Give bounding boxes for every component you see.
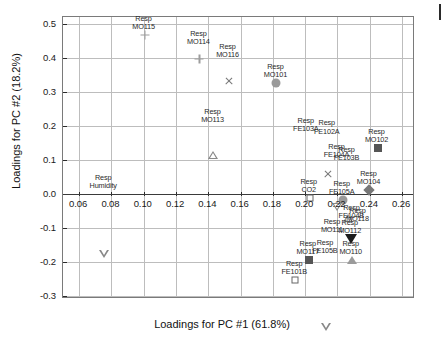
x-tick-label: 0.18 <box>263 198 281 209</box>
x-gridline <box>144 17 145 297</box>
zero-axis-line <box>63 194 413 195</box>
data-point-label-line2: MO117 <box>296 248 319 256</box>
y-tick-mark <box>63 58 67 59</box>
data-point-label-line2: MO115 <box>132 23 155 31</box>
x-tick-label: 0.12 <box>166 198 184 209</box>
x-axis-title: Loadings for PC #1 (61.8%) <box>0 318 444 330</box>
data-point-marker <box>272 79 281 88</box>
data-point-label-line2: MO101 <box>264 71 287 79</box>
x-tick-label: 0.06 <box>69 198 87 209</box>
x-tick-label: 0.10 <box>134 198 152 209</box>
data-point-label-line2: FE101B <box>281 268 306 276</box>
data-point-label: RespMO110 <box>339 240 362 256</box>
x-gridline <box>176 17 177 297</box>
data-point-label-line2: MO116 <box>216 51 239 59</box>
y-gridline <box>63 24 413 25</box>
y-tick-mark <box>63 92 67 93</box>
data-point-marker <box>208 151 218 159</box>
data-point-label-line2: MO104 <box>357 178 380 186</box>
x-gridline <box>79 17 80 297</box>
data-point-label: RespMO101 <box>264 63 287 79</box>
y-gridline <box>63 296 413 297</box>
data-point-label: RespCO2 <box>301 178 317 194</box>
x-gridline <box>111 17 112 297</box>
data-point-label: RespMO104 <box>357 170 380 186</box>
x-gridline <box>273 17 274 297</box>
data-point-marker <box>195 54 204 63</box>
data-point-label: RespMO117 <box>296 240 319 256</box>
data-point-label-line2: FE105A <box>329 188 354 196</box>
data-point-label: RespMO115 <box>132 15 155 31</box>
x-gridline <box>402 17 403 297</box>
y-tick-label: 0.1 <box>24 153 56 164</box>
y-gridline <box>63 92 413 93</box>
data-point-marker <box>323 170 332 179</box>
y-axis-title: Loadings for PC #2 (18.2%) <box>10 21 22 221</box>
data-point-label: RespMO102 <box>365 128 388 144</box>
x-tick-label: 0.16 <box>231 198 249 209</box>
data-point-label-line2: FE103B <box>334 154 359 162</box>
x-gridline <box>370 17 371 297</box>
data-point-label: RespMO116 <box>216 43 239 59</box>
data-point-marker <box>140 30 149 39</box>
data-point-label-line2: MO112 <box>338 227 361 235</box>
y-tick-mark <box>63 262 67 263</box>
y-tick-label: 0.2 <box>24 119 56 130</box>
data-point-marker <box>99 250 109 258</box>
y-tick-mark <box>63 126 67 127</box>
data-point-marker <box>347 256 357 264</box>
x-tick-label: 0.08 <box>101 198 119 209</box>
y-tick-mark <box>63 160 67 161</box>
data-point-label-line2: Humidity <box>90 182 117 190</box>
y-tick-label: -0.2 <box>24 255 56 266</box>
data-point-marker <box>374 144 382 152</box>
y-tick-label: -0.1 <box>24 221 56 232</box>
x-gridline <box>241 17 242 297</box>
data-point-marker <box>224 77 233 86</box>
x-tick-label: 0.26 <box>392 198 410 209</box>
y-tick-mark <box>63 24 67 25</box>
y-tick-label: -0.3 <box>24 289 56 300</box>
data-point-label-line2: MO113 <box>201 116 224 124</box>
data-point-marker <box>292 276 299 283</box>
y-gridline <box>63 262 413 263</box>
data-point-label: RespMO112 <box>338 219 361 235</box>
data-point-label: RespFE103B <box>334 146 359 162</box>
y-tick-label: 0.4 <box>24 51 56 62</box>
scatter-plot-figure: Loadings for PC #1 (61.8%) Loadings for … <box>0 0 444 347</box>
y-gridline <box>63 126 413 127</box>
data-point-label: RespFE105A <box>329 180 354 196</box>
y-tick-label: 0.3 <box>24 85 56 96</box>
y-tick-label: 0.0 <box>24 187 56 198</box>
data-point-label-line2: FE102A <box>314 128 339 136</box>
y-tick-mark <box>63 296 67 297</box>
data-point-label-line2: CO2 <box>301 186 317 194</box>
edge-artifact <box>439 4 441 20</box>
x-tick-label: 0.14 <box>198 198 216 209</box>
data-point-label-line2: MO110 <box>339 248 362 256</box>
data-point-label: RespFE101B <box>281 260 306 276</box>
data-point-label-line2: MO102 <box>365 136 388 144</box>
data-point-label: RespHumidity <box>90 174 117 190</box>
data-point-label: RespMO114 <box>187 30 210 46</box>
data-point-label: RespMO113 <box>201 108 224 124</box>
x-tick-label: 0.20 <box>295 198 313 209</box>
y-gridline <box>63 160 413 161</box>
data-point-label-line2: MO114 <box>187 38 210 46</box>
y-tick-mark <box>63 228 67 229</box>
y-tick-label: 0.5 <box>24 17 56 28</box>
data-point-label: RespFE102A <box>314 119 339 135</box>
